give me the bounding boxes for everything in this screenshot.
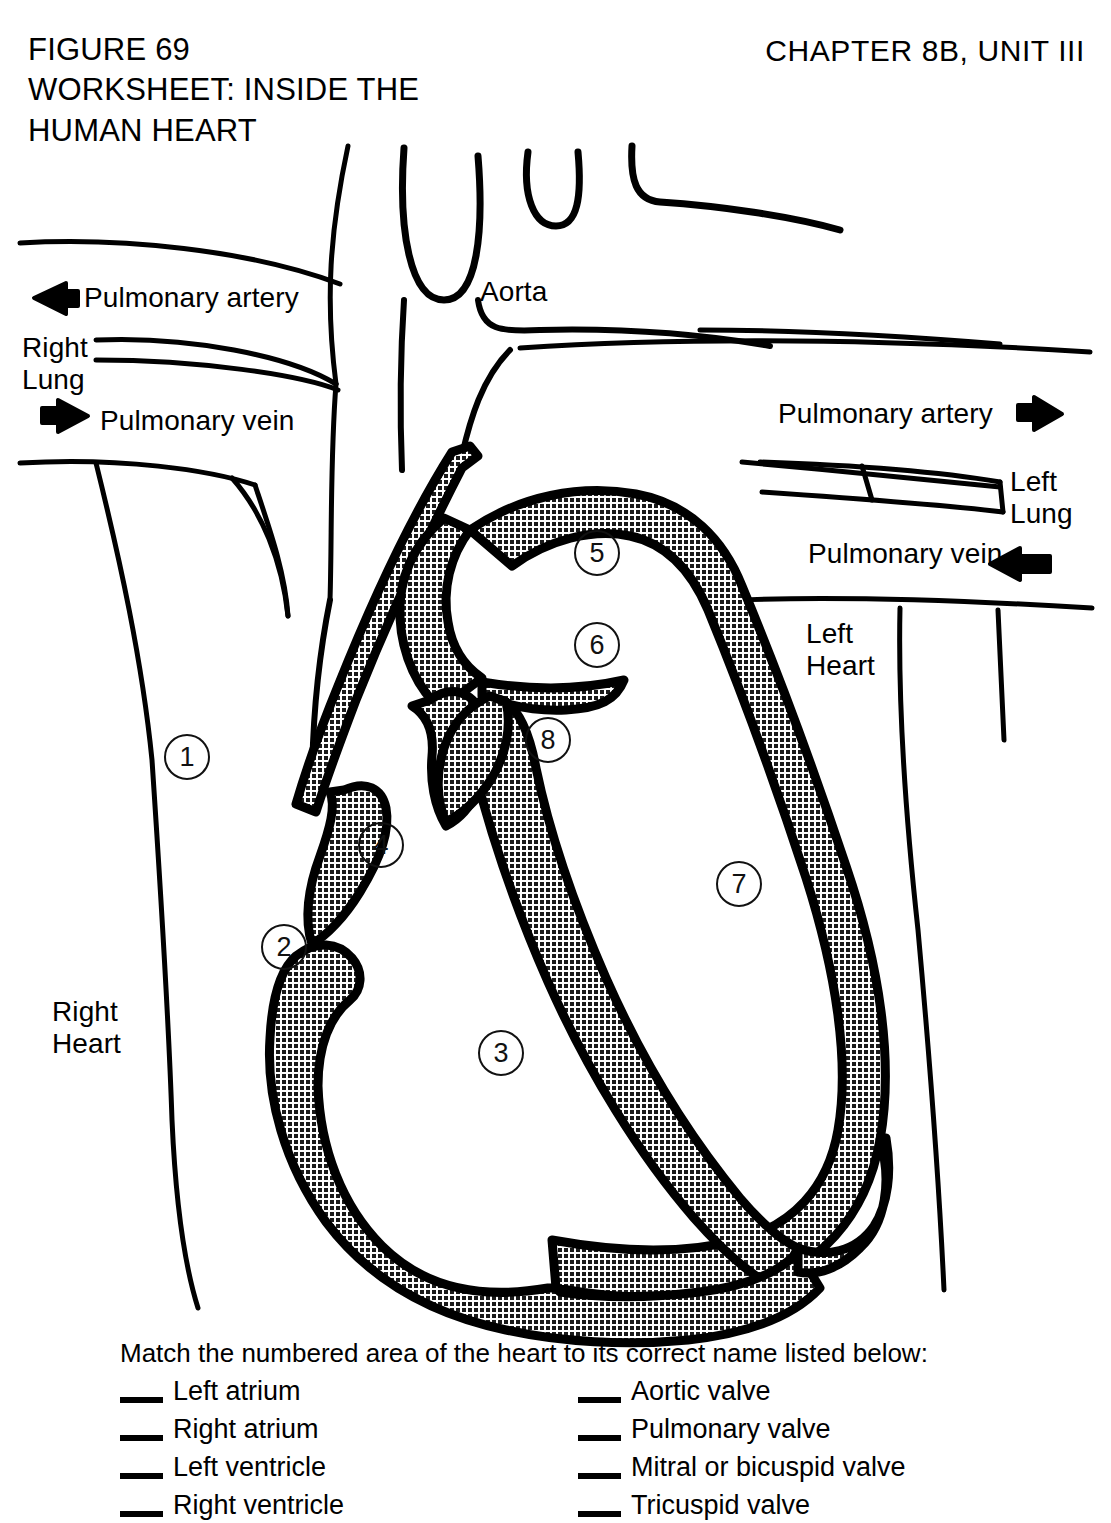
match-option-label: Pulmonary valve	[631, 1414, 831, 1445]
label-pulmonary-vein-left: Pulmonary vein	[100, 405, 294, 437]
matching-instruction: Match the numbered area of the heart to …	[120, 1338, 928, 1369]
matching-column-right: Aortic valve Pulmonary valve Mitral or b…	[578, 1372, 906, 1523]
match-option-label: Right ventricle	[173, 1490, 344, 1521]
callout-5-number: 5	[589, 538, 604, 569]
callout-2: 2	[261, 924, 307, 970]
right-ventricle-wall-shape	[269, 945, 820, 1343]
callout-4-number: 4	[373, 830, 388, 861]
pulmonary-artery-right-arrow-icon	[1018, 397, 1062, 430]
callout-7-number: 7	[731, 869, 746, 900]
callout-6: 6	[574, 622, 620, 668]
label-left-lung: Left Lung	[1010, 466, 1073, 531]
answer-blank-line[interactable]	[578, 1511, 621, 1517]
callout-2-number: 2	[276, 932, 291, 963]
answer-blank-line[interactable]	[578, 1473, 621, 1479]
match-option-label: Left atrium	[173, 1376, 301, 1407]
match-item[interactable]: Aortic valve	[578, 1372, 906, 1410]
match-item[interactable]: Mitral or bicuspid valve	[578, 1448, 906, 1486]
callout-6-number: 6	[589, 630, 604, 661]
match-option-label: Left ventricle	[173, 1452, 326, 1483]
label-right-lung: Right Lung	[22, 332, 88, 397]
match-option-label: Tricuspid valve	[631, 1490, 810, 1521]
match-item[interactable]: Left atrium	[120, 1372, 344, 1410]
callout-8-number: 8	[540, 725, 555, 756]
callout-4: 4	[358, 822, 404, 868]
callout-3-number: 3	[493, 1038, 508, 1069]
answer-blank-line[interactable]	[120, 1511, 163, 1517]
label-right-heart: Right Heart	[52, 996, 121, 1061]
callout-7: 7	[716, 861, 762, 907]
answer-blank-line[interactable]	[120, 1397, 163, 1403]
callout-3: 3	[478, 1030, 524, 1076]
match-option-label: Right atrium	[173, 1414, 319, 1445]
answer-blank-line[interactable]	[120, 1435, 163, 1441]
match-item[interactable]: Pulmonary valve	[578, 1410, 906, 1448]
label-aorta: Aorta	[480, 276, 547, 308]
match-item[interactable]: Right ventricle	[120, 1486, 344, 1523]
label-pulmonary-artery-left: Pulmonary artery	[84, 282, 299, 314]
matching-column-left: Left atrium Right atrium Left ventricle …	[120, 1372, 344, 1523]
callout-1: 1	[164, 734, 210, 780]
worksheet-page: FIGURE 69 WORKSHEET: INSIDE THE HUMAN HE…	[0, 0, 1111, 1523]
match-option-label: Mitral or bicuspid valve	[631, 1452, 906, 1483]
answer-blank-line[interactable]	[578, 1397, 621, 1403]
callout-1-number: 1	[179, 742, 194, 773]
pulmonary-vein-left-arrow-icon	[42, 400, 88, 432]
match-item[interactable]: Right atrium	[120, 1410, 344, 1448]
callout-5: 5	[574, 530, 620, 576]
match-item[interactable]: Left ventricle	[120, 1448, 344, 1486]
label-pulmonary-vein-right: Pulmonary vein	[808, 538, 1002, 570]
interventricular-septum-shape	[468, 698, 798, 1288]
answer-blank-line[interactable]	[578, 1435, 621, 1441]
label-pulmonary-artery-right: Pulmonary artery	[778, 398, 993, 430]
label-left-heart: Left Heart	[806, 618, 875, 683]
pulmonary-artery-left-arrow-icon	[34, 283, 78, 314]
callout-8: 8	[525, 717, 571, 763]
match-option-label: Aortic valve	[631, 1376, 771, 1407]
answer-blank-line[interactable]	[120, 1473, 163, 1479]
match-item[interactable]: Tricuspid valve	[578, 1486, 906, 1523]
